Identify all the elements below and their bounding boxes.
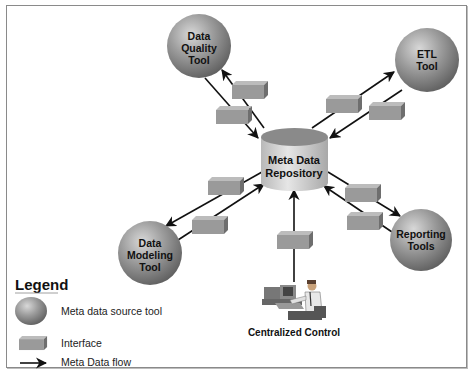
repository-label-line1: Meta Data (268, 154, 321, 166)
etl-tool-sphere: ETL Tool (395, 28, 459, 92)
data-quality-tool-sphere: Data Quality Tool (167, 14, 231, 78)
interface-box (369, 102, 405, 120)
person-at-computer-icon (262, 280, 326, 320)
tool-label: ETL (417, 48, 437, 60)
legend-title: Legend (15, 276, 68, 293)
tool-label: Data (139, 237, 162, 249)
legend-item-label: Meta data source tool (61, 305, 162, 317)
interface-box (208, 177, 244, 195)
legend-item-label: Meta Data flow (61, 356, 131, 368)
tool-label: Modeling (127, 249, 173, 261)
tool-label: Tool (139, 261, 160, 273)
tool-label: Tool (416, 60, 437, 72)
reporting-tools-sphere: Reporting Tools (390, 209, 452, 271)
tool-label: Data (188, 30, 211, 42)
interface-box (192, 216, 228, 234)
interface-box (216, 106, 252, 124)
data-modeling-tool-sphere: Data Modeling Tool (118, 221, 182, 285)
legend-sphere-icon (15, 297, 47, 325)
interface-box (277, 231, 313, 249)
meta-data-repository: Meta Data Repository (261, 128, 328, 191)
legend-item-label: Interface (61, 337, 102, 349)
metadata-architecture-diagram: Meta Data Repository Data Quality Tool E… (0, 0, 472, 388)
tool-label: Tools (407, 240, 434, 252)
interface-box (326, 95, 362, 113)
tool-label: Quality (181, 42, 217, 54)
centralized-control-label: Centralized Control (248, 327, 340, 338)
interface-box (345, 184, 381, 202)
interface-box (232, 81, 268, 99)
interface-box (347, 212, 383, 230)
repository-label-line2: Repository (265, 167, 323, 179)
legend-box-icon (19, 336, 47, 350)
tool-label: Reporting (396, 228, 446, 240)
legend: Legend Meta data source tool Interface M… (15, 276, 162, 368)
tool-label: Tool (188, 54, 209, 66)
